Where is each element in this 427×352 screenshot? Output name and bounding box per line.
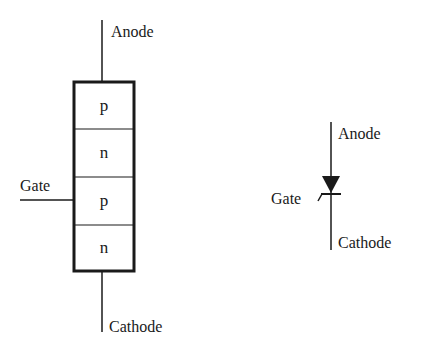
thyristor-diagram: Anode p n p n Gate Cathode Anode Gate Ca… (0, 0, 427, 352)
pnpn-structure: Anode p n p n Gate Cathode (20, 20, 162, 335)
layer-label-p1: p (100, 96, 109, 115)
symbol-gate-label: Gate (271, 190, 301, 207)
layer-label-n1: n (100, 143, 109, 162)
structure-gate-label: Gate (20, 177, 50, 194)
scr-symbol: Anode Gate Cathode (271, 122, 391, 251)
layer-label-n2: n (100, 238, 109, 257)
diode-triangle-icon (322, 176, 340, 193)
layer-label-p2: p (100, 191, 109, 210)
symbol-cathode-label: Cathode (338, 234, 391, 251)
symbol-anode-label: Anode (338, 125, 381, 142)
structure-cathode-label: Cathode (109, 318, 162, 335)
structure-anode-label: Anode (111, 23, 154, 40)
gate-hook-icon (318, 194, 326, 201)
